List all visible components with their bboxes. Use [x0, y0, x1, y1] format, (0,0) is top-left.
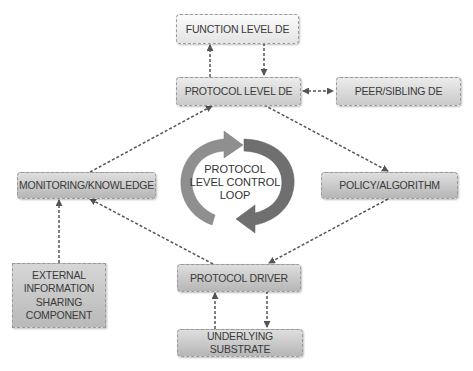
node-protocol-driver: PROTOCOL DRIVER — [177, 264, 301, 292]
node-label: UNDERLYING SUBSTRATE — [178, 330, 302, 355]
node-label: PEER/SIBLING DE — [355, 85, 442, 98]
node-policy-algorithm: POLICY/ALGORITHM — [321, 172, 458, 199]
loop-label-line-2: LEVEL CONTROL — [184, 176, 286, 189]
node-label-line: INFORMATION — [24, 282, 95, 295]
node-label: PROTOCOL DRIVER — [190, 272, 288, 285]
node-label: FUNCTION LEVEL DE — [186, 23, 290, 36]
node-external-information-sharing: EXTERNAL INFORMATION SHARING COMPONENT — [12, 263, 106, 328]
node-label-line: EXTERNAL — [32, 269, 86, 282]
node-peer-sibling-de: PEER/SIBLING DE — [336, 77, 461, 106]
loop-label-line-1: PROTOCOL — [184, 163, 286, 176]
node-label: MONITORING/KNOWLEDGE — [19, 179, 154, 192]
control-loop-label: PROTOCOL LEVEL CONTROL LOOP — [184, 163, 286, 203]
node-label: PROTOCOL LEVEL DE — [185, 85, 293, 98]
node-function-level-de: FUNCTION LEVEL DE — [176, 14, 299, 44]
edge-policy-to-driver — [269, 199, 388, 263]
loop-label-line-3: LOOP — [184, 189, 286, 202]
node-monitoring-knowledge: MONITORING/KNOWLEDGE — [17, 172, 156, 199]
node-label-line: SHARING — [36, 296, 82, 309]
node-protocol-level-de: PROTOCOL LEVEL DE — [176, 77, 301, 106]
node-underlying-substrate: UNDERLYING SUBSTRATE — [177, 329, 303, 357]
node-label-line: COMPONENT — [26, 309, 92, 322]
node-label: POLICY/ALGORITHM — [339, 179, 440, 192]
